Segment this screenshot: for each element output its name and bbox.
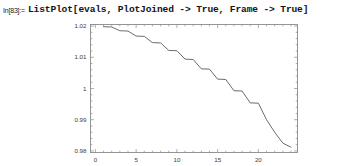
plot-frame: [91, 25, 298, 153]
list-plot-svg: 051015200.980.9911.011.02: [0, 18, 340, 166]
notebook-cell: In[83]:= ListPlot[evals, PlotJoined -> T…: [0, 0, 340, 166]
x-tick-label: 15: [214, 156, 221, 163]
y-tick-label: 0.98: [74, 147, 87, 154]
y-tick-label: 0.99: [74, 116, 87, 123]
x-tick-label: 5: [134, 156, 138, 163]
y-tick-label: 1.02: [74, 22, 87, 29]
input-code-text[interactable]: ListPlot[evals, PlotJoined -> True, Fram…: [28, 5, 308, 15]
x-tick-label: 0: [94, 156, 98, 163]
y-tick-label: 1.01: [74, 53, 87, 60]
input-cell-row[interactable]: In[83]:= ListPlot[evals, PlotJoined -> T…: [0, 0, 340, 20]
data-line-evals: [104, 27, 291, 148]
x-tick-label: 20: [255, 156, 262, 163]
in-prompt-label: In[83]:=: [3, 7, 25, 14]
y-tick-label: 1: [83, 85, 87, 92]
plot-output[interactable]: 051015200.980.9911.011.02: [0, 18, 340, 166]
x-tick-label: 10: [173, 156, 180, 163]
